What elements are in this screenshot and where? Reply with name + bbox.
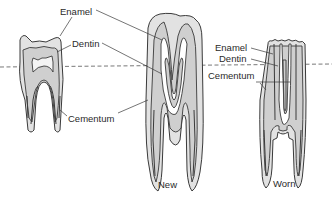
tooth-diagram: Enamel Dentin Cementum Enamel Dentin Cem…	[0, 0, 332, 207]
worn-tooth	[260, 40, 306, 189]
label-enamel-right: Enamel	[215, 42, 247, 53]
label-new: New	[158, 179, 177, 190]
label-enamel-left: Enamel	[60, 6, 92, 17]
new-tooth	[146, 13, 203, 191]
leader-cementum-left-b	[118, 100, 148, 113]
label-cementum-left: Cementum	[68, 113, 115, 124]
label-cementum-right: Cementum	[208, 70, 255, 81]
low-crowned-tooth	[20, 36, 63, 133]
leader-enamel-left-a	[60, 17, 72, 36]
label-dentin-right: Dentin	[219, 53, 246, 64]
label-dentin-left: Dentin	[72, 38, 99, 49]
label-worn: Worn	[273, 178, 296, 189]
